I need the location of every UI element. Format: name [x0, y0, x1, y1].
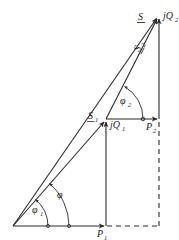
label-s-total: S: [137, 11, 145, 23]
label-jq1: jQ 1: [108, 119, 125, 132]
label-p1-sub: 1: [104, 234, 107, 240]
s1-vector: [13, 122, 104, 226]
label-phi2-text: φ: [120, 95, 126, 106]
label-phi1-sub: 1: [40, 210, 43, 217]
label-phi-text: φ: [57, 189, 63, 200]
phasor-diagram-svg: S jQ 2 S 2 φ 2 P 2: [0, 0, 179, 240]
label-jq1-sub: 1: [122, 125, 125, 132]
label-jq2-text: jQ: [161, 10, 174, 21]
label-phi1-text: φ: [32, 204, 38, 215]
label-p2: P 2: [145, 121, 157, 134]
label-phi2: φ 2: [120, 95, 132, 108]
label-s2-sub: 2: [139, 41, 147, 48]
label-phi2-sub: 2: [128, 101, 132, 108]
phasor-diagram-figure: S jQ 2 S 2 φ 2 P 2: [0, 0, 179, 240]
s2-vector: [106, 19, 157, 119]
dashed-construction-lines: [107, 120, 159, 226]
label-s1-text: S: [88, 110, 93, 121]
label-p1: P 1: [96, 228, 107, 240]
label-s1: S 1: [87, 110, 98, 123]
label-jq2-sub: 2: [175, 16, 179, 23]
label-p2-text: P: [145, 121, 152, 132]
label-p1-text: P: [96, 228, 103, 239]
label-p2-sub: 2: [153, 127, 157, 134]
label-jq1-text: jQ: [108, 119, 121, 130]
label-jq2: jQ 2: [161, 10, 179, 23]
label-s-total-text: S: [138, 11, 143, 22]
label-phi: φ: [57, 189, 63, 200]
label-s1-sub: 1: [95, 116, 98, 123]
